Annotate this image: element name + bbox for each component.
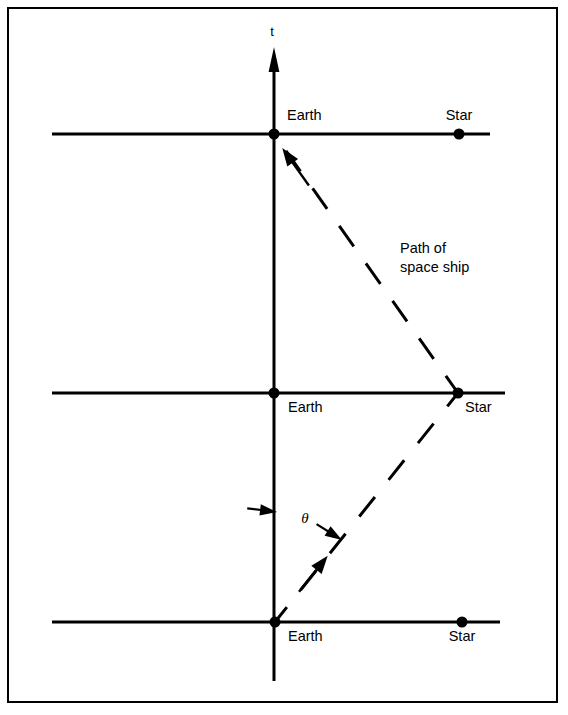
spacetime-diagram-figure: t Earth Star Earth Star Earth Star [0, 0, 568, 715]
spaceship-worldline: Path of space ship [274, 134, 469, 622]
figure-border [8, 8, 557, 702]
worldline-caption-line2: space ship [400, 259, 469, 275]
middle-frame-star-label: Star [465, 399, 492, 415]
bottom-frame-star-dot [457, 617, 468, 628]
bottom-frame-star-label: Star [449, 628, 476, 644]
top-frame-group: Earth Star [52, 107, 490, 140]
time-axis-arrowhead [269, 47, 280, 72]
worldline-caption-line1: Path of [400, 240, 447, 256]
worldline-return-direction-arrow [277, 144, 314, 189]
top-frame-star-dot [454, 129, 465, 140]
middle-frame-group: Earth Star [52, 388, 505, 416]
middle-frame-earth-dot [269, 388, 280, 399]
diagram-canvas: t Earth Star Earth Star Earth Star [0, 0, 568, 715]
top-frame-star-label: Star [446, 107, 473, 123]
top-frame-earth-label: Earth [287, 107, 322, 123]
time-axis-label: t [270, 24, 274, 39]
theta-symbol-label: θ [301, 510, 309, 526]
worldline-outbound-direction-arrow [294, 552, 333, 596]
time-axis: t [269, 24, 280, 681]
angle-theta-annotation: θ [247, 503, 345, 545]
bottom-frame-earth-label: Earth [288, 628, 323, 644]
middle-frame-earth-label: Earth [288, 399, 323, 415]
